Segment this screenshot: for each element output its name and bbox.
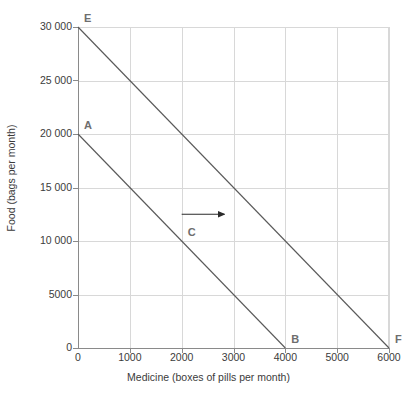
point-label-E: E xyxy=(84,13,91,24)
y-tick-mark xyxy=(73,241,78,242)
point-label-C: C xyxy=(188,227,196,238)
x-tick-label: 3000 xyxy=(222,352,245,363)
gridline-horizontal xyxy=(78,134,389,135)
x-tick-label: 5000 xyxy=(325,352,348,363)
ppf-chart: 0500010 00015 00020 00025 00030 000 0100… xyxy=(0,0,417,401)
y-tick-mark xyxy=(73,27,78,28)
gridline-horizontal xyxy=(78,295,389,296)
y-tick-label: 0 xyxy=(66,342,72,353)
y-tick-label: 15 000 xyxy=(40,182,72,193)
x-tick-label: 2000 xyxy=(170,352,193,363)
point-label-B: B xyxy=(291,334,299,345)
y-tick-mark xyxy=(73,188,78,189)
y-tick-mark xyxy=(73,80,78,81)
point-label-A: A xyxy=(84,120,92,131)
gridline-vertical xyxy=(389,27,390,348)
y-tick-mark xyxy=(73,134,78,135)
y-tick-label: 10 000 xyxy=(40,235,72,246)
x-axis-title: Medicine (boxes of pills per month) xyxy=(0,371,417,383)
y-tick-label: 30 000 xyxy=(40,21,72,32)
point-label-F: F xyxy=(395,334,402,345)
y-tick-label: 20 000 xyxy=(40,128,72,139)
gridline-horizontal xyxy=(78,241,389,242)
x-tick-label: 4000 xyxy=(274,352,297,363)
plot-area xyxy=(78,27,389,348)
y-tick-label: 25 000 xyxy=(40,75,72,86)
y-tick-label: 5000 xyxy=(49,289,72,300)
y-tick-mark xyxy=(73,295,78,296)
x-tick-label: 1000 xyxy=(118,352,141,363)
y-axis-title: Food (bags per month) xyxy=(5,83,17,273)
y-tick-mark xyxy=(73,348,78,349)
x-tick-label: 0 xyxy=(75,352,81,363)
gridline-horizontal xyxy=(78,188,389,189)
x-tick-label: 6000 xyxy=(377,352,400,363)
y-axis-line xyxy=(78,27,79,349)
gridline-horizontal xyxy=(78,81,389,82)
